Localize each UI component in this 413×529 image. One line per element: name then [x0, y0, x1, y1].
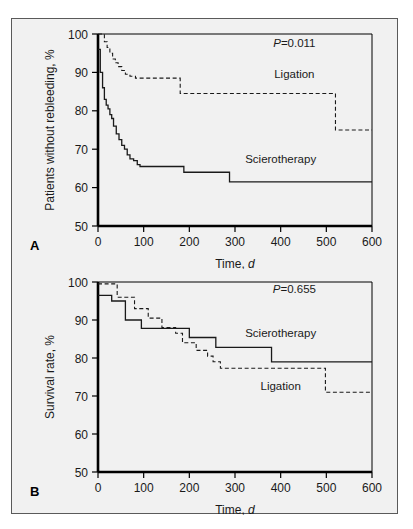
panel-label: A — [30, 238, 40, 253]
curve-label-ligation: Ligation — [261, 380, 301, 392]
y-tick-label: 50 — [75, 220, 89, 234]
panel-a-rebleeding: 50607080901000100200300400500600Patients… — [12, 19, 399, 269]
figure-frame: 50607080901000100200300400500600Patients… — [11, 18, 398, 514]
panel-b-survival: 50607080901000100200300400500600Survival… — [12, 269, 399, 515]
x-axis-title: Time, d — [215, 503, 255, 515]
x-axis-title-text: Time, — [215, 503, 248, 515]
x-tick-label: 600 — [362, 235, 382, 249]
km-curve-ligation — [98, 284, 372, 392]
x-tick-label: 400 — [271, 235, 291, 249]
km-curve-scierotherapy — [98, 49, 372, 181]
curve-label-scierotherapy: Scierotherapy — [245, 153, 316, 165]
y-tick-label: 70 — [75, 143, 89, 157]
x-tick-label: 100 — [134, 481, 154, 495]
p-number: =0.655 — [280, 283, 316, 295]
y-axis-title: Patients without rebleeding, % — [43, 49, 57, 211]
p-value-annotation: P=0.655 — [273, 283, 316, 295]
plot-frame — [98, 34, 372, 226]
y-tick-label: 70 — [75, 390, 89, 404]
x-axis-title-unit: d — [248, 503, 255, 515]
km-curve-ligation — [98, 34, 372, 130]
panel-b-plot-area: 50607080901000100200300400500600Survival… — [30, 276, 382, 516]
panel-a-plot-area: 50607080901000100200300400500600Patients… — [30, 28, 382, 270]
x-tick-label: 100 — [134, 235, 154, 249]
x-tick-label: 600 — [362, 481, 382, 495]
x-tick-label: 200 — [179, 235, 199, 249]
curve-label-scierotherapy: Scierotherapy — [245, 327, 316, 339]
p-number: =0.011 — [281, 37, 316, 49]
y-tick-label: 100 — [68, 28, 88, 42]
y-tick-label: 100 — [68, 276, 88, 290]
y-tick-label: 80 — [75, 104, 89, 118]
y-tick-label: 60 — [75, 428, 89, 442]
x-tick-label: 200 — [179, 481, 199, 495]
p-value-annotation: P=0.011 — [273, 37, 315, 49]
panel-a-svg: 50607080901000100200300400500600Patients… — [12, 19, 399, 269]
x-axis-title: Time, d — [215, 257, 255, 269]
x-tick-label: 500 — [316, 481, 336, 495]
curve-label-ligation: Ligation — [274, 68, 314, 80]
y-tick-label: 90 — [75, 66, 89, 80]
x-tick-label: 400 — [271, 481, 291, 495]
panel-b-svg: 50607080901000100200300400500600Survival… — [12, 269, 399, 515]
x-axis-title-text: Time, — [215, 257, 248, 269]
x-tick-label: 0 — [95, 481, 102, 495]
x-tick-label: 300 — [225, 481, 245, 495]
y-axis-title: Survival rate, % — [43, 335, 57, 419]
y-tick-label: 90 — [75, 314, 89, 328]
x-tick-label: 500 — [316, 235, 336, 249]
y-tick-label: 60 — [75, 181, 89, 195]
km-curve-scierotherapy — [98, 295, 372, 362]
x-tick-label: 0 — [95, 235, 102, 249]
y-tick-label: 50 — [75, 466, 89, 480]
x-axis-title-unit: d — [248, 257, 255, 269]
y-tick-label: 80 — [75, 352, 89, 366]
plot-frame — [98, 282, 372, 472]
panel-label: B — [30, 484, 39, 499]
x-tick-label: 300 — [225, 235, 245, 249]
